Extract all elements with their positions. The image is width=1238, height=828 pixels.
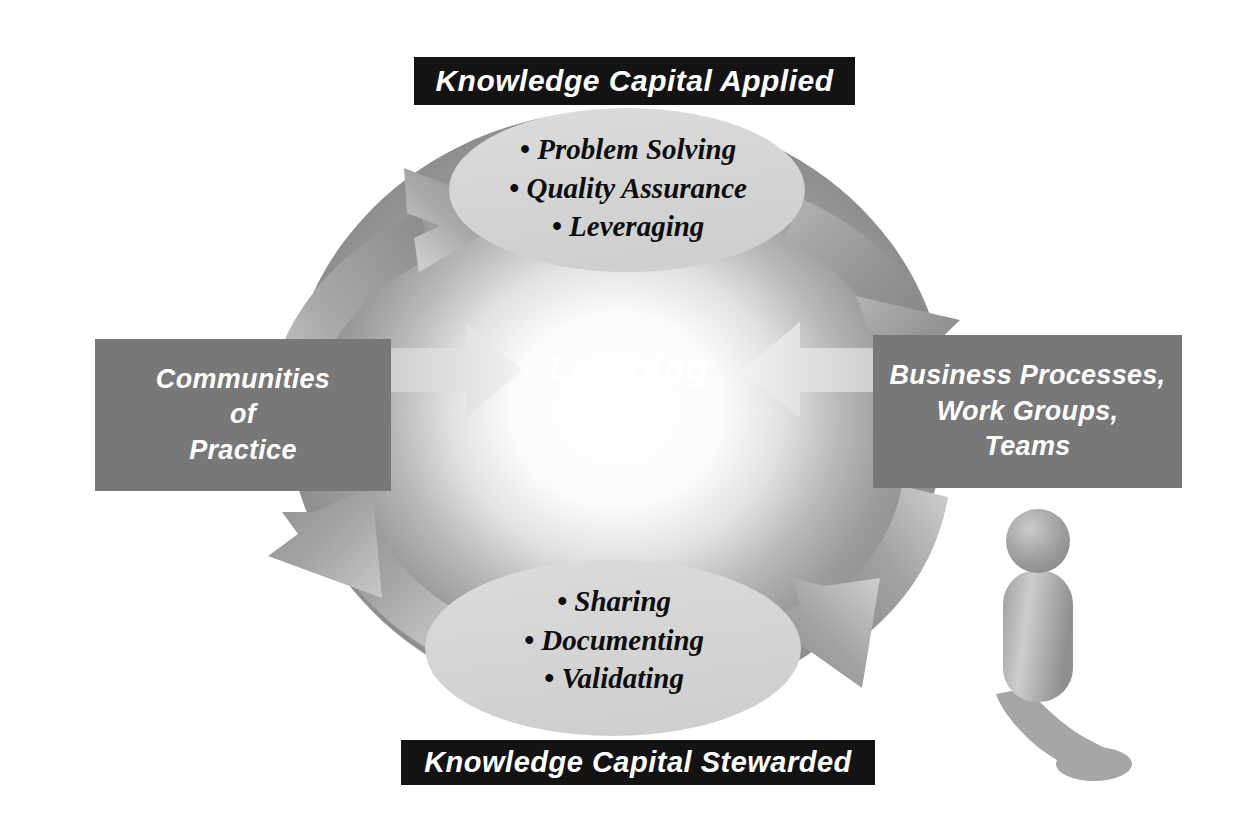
box-business-processes: Business Processes, Work Groups, Teams — [873, 335, 1182, 488]
box-right-line-3: Teams — [984, 429, 1070, 465]
ellipse-knowledge-capital-applied — [449, 108, 805, 272]
box-right-line-1: Business Processes, — [890, 358, 1166, 394]
ellipse-knowledge-capital-stewarded — [425, 560, 801, 736]
box-left-line-3: Practice — [189, 433, 296, 469]
person-figure — [996, 509, 1132, 781]
box-right-line-2: Work Groups, — [937, 394, 1119, 430]
banner-knowledge-capital-stewarded: Knowledge Capital Stewarded — [401, 740, 875, 785]
box-communities-of-practice: Communities of Practice — [95, 339, 391, 491]
box-left-line-1: Communities — [156, 362, 330, 398]
banner-knowledge-capital-applied: Knowledge Capital Applied — [414, 57, 855, 105]
diagram-canvas: Knowledge Capital Applied Knowledge Capi… — [0, 0, 1238, 828]
box-left-line-2: of — [230, 397, 256, 433]
